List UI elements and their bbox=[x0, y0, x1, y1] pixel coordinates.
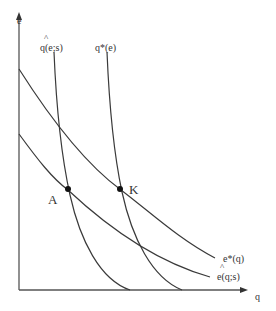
x-axis-label: q bbox=[255, 291, 260, 302]
economics-diagram: e q ^ q(e;s) q*(e) e*(q) ^ e(q;s) A K bbox=[0, 0, 276, 311]
curve-q-star-label: q*(e) bbox=[95, 42, 116, 54]
curve-e-hat-label: e(q;s) bbox=[217, 271, 240, 283]
curve-q-star bbox=[107, 52, 182, 290]
y-axis-label: e bbox=[17, 15, 22, 26]
curve-q-hat-label: q(e;s) bbox=[40, 42, 63, 54]
point-k-marker bbox=[117, 186, 123, 192]
point-k-label: K bbox=[129, 182, 139, 197]
curve-e-star-label: e*(q) bbox=[223, 253, 244, 265]
point-a-label: A bbox=[48, 192, 58, 207]
point-a-marker bbox=[65, 186, 71, 192]
